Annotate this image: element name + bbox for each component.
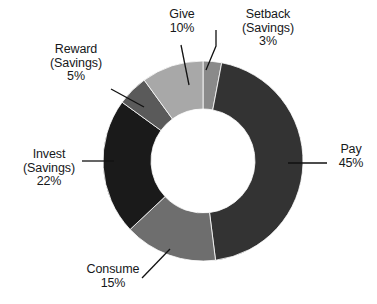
slice-label-pay-line2: 45% [329, 157, 373, 171]
slice-label-setback-line2: (Savings) [222, 22, 314, 36]
slice-label-reward-line2: (Savings) [31, 57, 121, 71]
slice-label-setback-line3: 3% [222, 35, 314, 49]
donut-chart: Give 10% Setback (Savings) 3% Reward (Sa… [0, 0, 377, 304]
slice-label-pay: Pay 45% [329, 143, 373, 170]
slice-label-reward-line1: Reward [31, 43, 121, 57]
slice-label-invest-savings: Invest (Savings) 22% [3, 148, 95, 189]
slice-label-setback-line1: Setback [222, 8, 314, 22]
donut-slice-pay[interactable] [210, 63, 303, 260]
slice-label-invest-line3: 22% [3, 175, 95, 189]
slice-label-invest-line2: (Savings) [3, 162, 95, 176]
slice-label-consume: Consume 15% [74, 263, 152, 290]
slice-label-reward-savings: Reward (Savings) 5% [31, 43, 121, 84]
slice-label-pay-line1: Pay [329, 143, 373, 157]
slice-label-consume-line1: Consume [74, 263, 152, 277]
slice-label-invest-line1: Invest [3, 148, 95, 162]
slice-label-give: Give 10% [151, 8, 213, 35]
donut-slices-group [103, 61, 303, 261]
slice-label-give-line2: 10% [151, 22, 213, 36]
slice-label-reward-line3: 5% [31, 70, 121, 84]
slice-label-give-line1: Give [151, 8, 213, 22]
slice-label-consume-line2: 15% [74, 277, 152, 291]
slice-label-setback-savings: Setback (Savings) 3% [222, 8, 314, 49]
